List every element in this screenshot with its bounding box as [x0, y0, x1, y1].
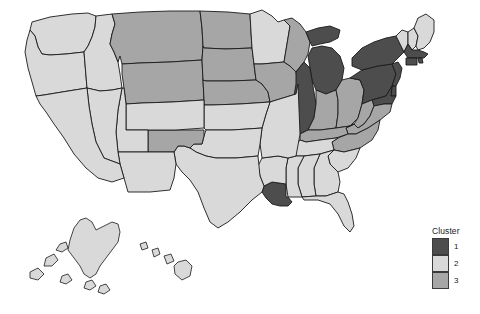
state-HI[interactable]	[140, 242, 192, 280]
state-AZ[interactable]	[118, 152, 176, 192]
us-map-svg	[0, 0, 480, 314]
state-AK[interactable]	[30, 218, 120, 284]
legend-swatch-1[interactable]	[432, 238, 449, 255]
legend-row-1[interactable]: 1	[430, 238, 480, 255]
legend-swatch-3[interactable]	[432, 272, 449, 289]
state-MN[interactable]	[250, 10, 290, 64]
state-AK-aleutians	[84, 280, 110, 294]
legend-label-3: 3	[454, 272, 458, 289]
state-ND[interactable]	[200, 11, 252, 49]
state-MT[interactable]	[110, 11, 203, 64]
state-CT[interactable]	[406, 58, 417, 65]
state-FL[interactable]	[302, 192, 354, 232]
legend-label-1: 1	[454, 238, 458, 255]
state-RI[interactable]	[418, 58, 423, 63]
legend-row-3[interactable]: 3	[430, 272, 480, 289]
inset-layer	[30, 218, 192, 294]
state-CO[interactable]	[126, 100, 204, 130]
state-SD[interactable]	[202, 46, 256, 81]
state-TX[interactable]	[174, 146, 264, 228]
us-cluster-choropleth-map: Cluster 1 2 3	[0, 0, 480, 314]
map-legend: Cluster 1 2 3	[430, 226, 480, 302]
states-layer	[25, 10, 434, 232]
legend-title: Cluster	[432, 226, 480, 236]
state-ME[interactable]	[414, 14, 434, 50]
state-KS[interactable]	[204, 102, 270, 130]
legend-label-2: 2	[454, 255, 458, 272]
state-NE[interactable]	[203, 80, 270, 105]
legend-swatch-2[interactable]	[432, 255, 449, 272]
state-WY[interactable]	[122, 60, 204, 104]
legend-row-2[interactable]: 2	[430, 255, 480, 272]
